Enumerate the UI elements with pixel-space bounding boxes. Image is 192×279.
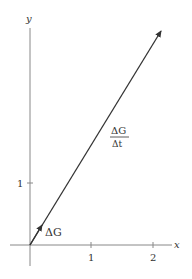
large-vector-arrow	[30, 31, 161, 245]
x-tick-label-2: 2	[150, 252, 156, 263]
large-vector-label-numerator: ΔG	[111, 125, 126, 136]
vector-diagram: x y 1 2 1 ΔG ΔG Δt	[0, 0, 192, 279]
x-tick-label-1: 1	[88, 252, 94, 263]
small-vector-label: ΔG	[45, 226, 62, 239]
y-tick-label-1: 1	[17, 178, 23, 189]
y-axis-label: y	[25, 13, 32, 24]
x-axis-label: x	[174, 239, 180, 250]
large-vector-label-denominator: Δt	[112, 139, 122, 149]
small-vector-arrow	[30, 225, 42, 245]
